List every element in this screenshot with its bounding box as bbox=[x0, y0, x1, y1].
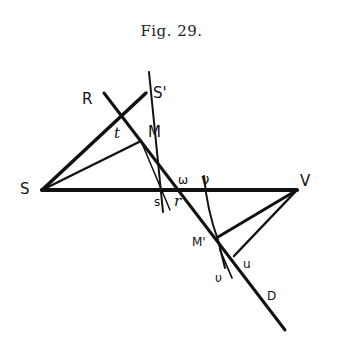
label-r: r bbox=[174, 192, 182, 210]
geometry-diagram: R S' t M S ω s r ν V M' υ u D bbox=[0, 0, 343, 357]
label-S: S bbox=[20, 180, 30, 198]
label-V: V bbox=[300, 172, 311, 190]
label-t: t bbox=[114, 124, 121, 142]
label-u: u bbox=[243, 257, 251, 271]
line-S-Sprime bbox=[42, 93, 146, 190]
label-s: s bbox=[154, 195, 160, 209]
line-R-D bbox=[104, 93, 285, 330]
line-S-M bbox=[42, 141, 141, 190]
label-D: D bbox=[267, 289, 276, 303]
label-M: M bbox=[148, 123, 161, 141]
label-upsilon: υ bbox=[215, 271, 222, 285]
label-omega: ω bbox=[178, 173, 188, 187]
label-R: R bbox=[82, 90, 92, 108]
label-S-prime: S' bbox=[153, 84, 167, 102]
label-M-prime: M' bbox=[192, 235, 206, 249]
label-nu: ν bbox=[201, 171, 209, 189]
